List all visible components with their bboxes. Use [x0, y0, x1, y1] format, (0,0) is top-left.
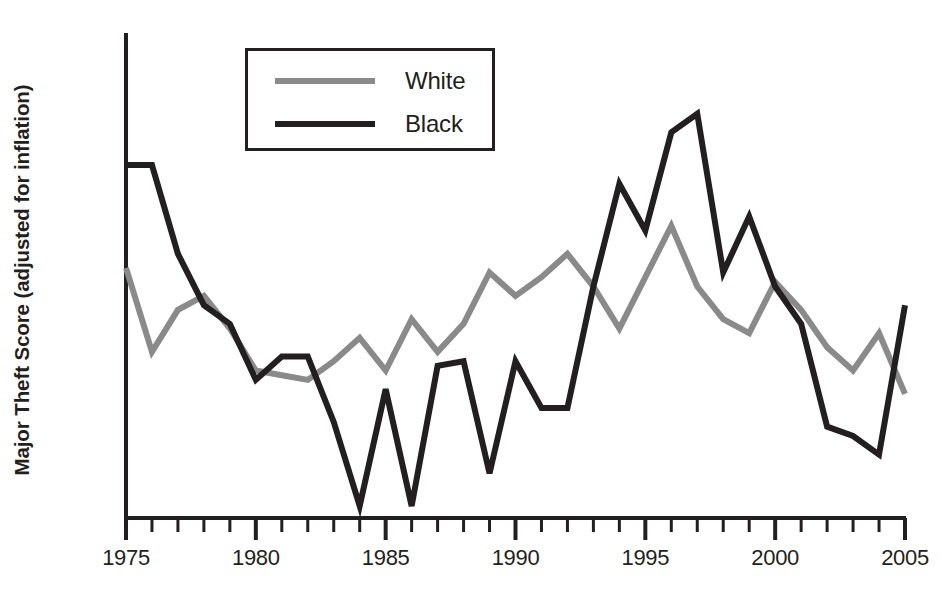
- legend-swatch-black: [275, 121, 375, 127]
- x-tick-label-1990: 1990: [481, 545, 551, 571]
- x-tick-label-2000: 2000: [740, 545, 810, 571]
- legend-item-white: White: [248, 61, 492, 101]
- legend-item-black: Black: [248, 104, 492, 144]
- data-series-group: [126, 114, 905, 506]
- x-axis-ticks: [126, 518, 905, 540]
- x-tick-label-2005: 2005: [870, 545, 940, 571]
- chart-figure: Major Theft Score (adjusted for inflatio…: [0, 0, 952, 599]
- legend-label-black: Black: [405, 112, 463, 136]
- legend-label-white: White: [405, 69, 465, 93]
- series-line-black: [126, 114, 905, 506]
- chart-legend: White Black: [245, 48, 495, 151]
- x-tick-label-1995: 1995: [610, 545, 680, 571]
- x-tick-label-1975: 1975: [91, 545, 161, 571]
- x-tick-label-1980: 1980: [221, 545, 291, 571]
- x-tick-label-1985: 1985: [351, 545, 421, 571]
- legend-swatch-white: [275, 78, 375, 84]
